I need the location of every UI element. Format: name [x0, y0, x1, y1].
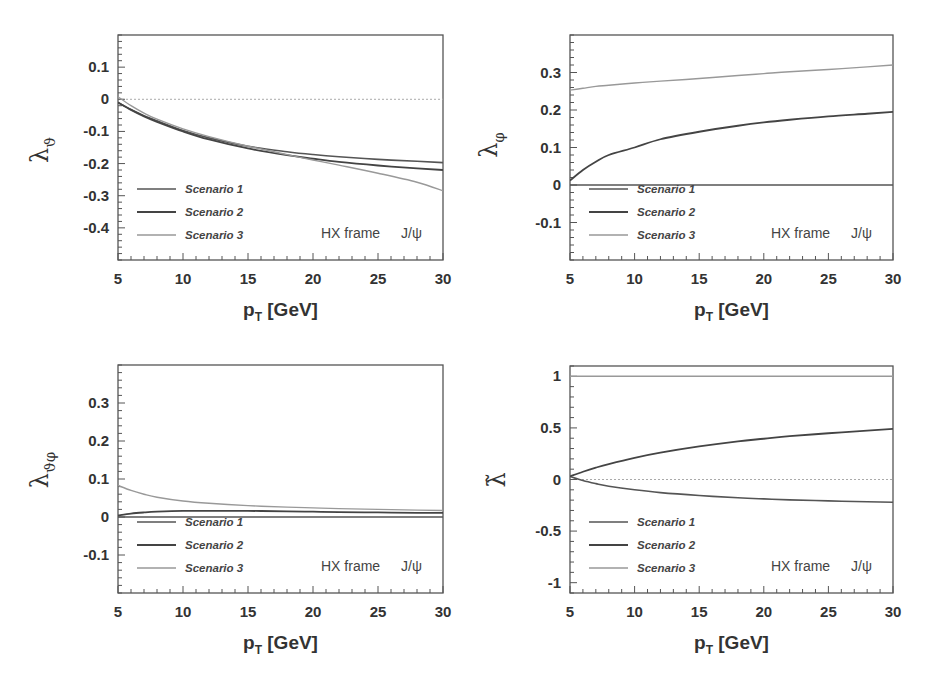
y-tick-label: 0.1	[88, 58, 109, 75]
y-axis-label: λ̃	[483, 472, 511, 487]
panel-lambda-tilde: 51015202530pT [GeV]-1-0.500.51λ̃Scenario…	[483, 366, 901, 657]
x-tick-label: 10	[626, 270, 643, 287]
plot-frame	[118, 35, 443, 260]
y-tick-label: 0	[101, 508, 109, 525]
legend-label: Scenario 3	[637, 562, 696, 574]
legend-label: Scenario 1	[185, 183, 243, 195]
y-tick-label: 0	[101, 90, 109, 107]
x-tick-label: 15	[240, 270, 257, 287]
x-tick-label: 20	[755, 270, 772, 287]
legend-label: Scenario 1	[637, 516, 695, 528]
x-tick-label: 30	[885, 603, 902, 620]
y-axis-label: λφ	[475, 132, 508, 158]
particle-annotation: J/ψ	[401, 558, 422, 574]
x-tick-label: 25	[370, 603, 387, 620]
x-axis-label: pT [GeV]	[694, 299, 769, 324]
x-tick-label: 20	[305, 270, 322, 287]
x-tick-label: 25	[820, 603, 837, 620]
y-tick-label: -0.4	[83, 219, 110, 236]
y-tick-label: 1	[553, 367, 561, 384]
legend-label: Scenario 3	[185, 229, 244, 241]
x-tick-label: 5	[566, 603, 574, 620]
plot-frame	[118, 365, 443, 593]
panel-lambda-phi: 51015202530pT [GeV]-0.100.10.20.3λφScena…	[475, 35, 901, 324]
frame-annotation: HX frame	[771, 558, 830, 574]
y-tick-label: -0.1	[83, 122, 109, 139]
x-axis-label: pT [GeV]	[243, 632, 318, 657]
frame-annotation: HX frame	[321, 225, 380, 241]
x-tick-label: 20	[305, 603, 322, 620]
x-tick-label: 30	[885, 270, 902, 287]
figure-canvas: 51015202530pT [GeV]-0.4-0.3-0.2-0.100.1λ…	[0, 0, 930, 689]
frame-annotation: HX frame	[321, 558, 380, 574]
legend-label: Scenario 1	[637, 183, 695, 195]
y-tick-label: 0.1	[540, 139, 561, 156]
y-tick-label: 0	[553, 176, 561, 193]
x-tick-label: 5	[114, 270, 122, 287]
y-tick-label: -0.1	[535, 214, 561, 231]
legend-label: Scenario 1	[185, 516, 243, 528]
y-tick-label: -0.5	[535, 522, 561, 539]
y-tick-label: -0.3	[83, 187, 109, 204]
x-tick-label: 15	[691, 603, 708, 620]
y-axis-label: λϑφ	[26, 452, 59, 488]
legend-label: Scenario 2	[185, 206, 244, 218]
legend-label: Scenario 2	[637, 539, 696, 551]
x-tick-label: 15	[240, 603, 257, 620]
y-axis-label: λϑ	[26, 137, 59, 163]
panel-lambda-theta-phi: 51015202530pT [GeV]-0.100.10.20.3λϑφScen…	[26, 365, 451, 657]
y-tick-label: -0.1	[83, 546, 109, 563]
x-tick-label: 30	[435, 270, 452, 287]
x-tick-label: 25	[820, 270, 837, 287]
particle-annotation: J/ψ	[851, 558, 872, 574]
y-tick-label: 0.2	[88, 432, 109, 449]
legend-label: Scenario 2	[185, 539, 244, 551]
x-axis-label: pT [GeV]	[243, 299, 318, 324]
legend-label: Scenario 3	[637, 229, 696, 241]
frame-annotation: HX frame	[771, 225, 830, 241]
panel-lambda-theta: 51015202530pT [GeV]-0.4-0.3-0.2-0.100.1λ…	[26, 35, 451, 324]
y-tick-label: 0.5	[540, 419, 561, 436]
particle-annotation: J/ψ	[401, 225, 422, 241]
x-axis-label: pT [GeV]	[694, 632, 769, 657]
x-tick-label: 20	[755, 603, 772, 620]
x-tick-label: 25	[370, 270, 387, 287]
x-tick-label: 10	[175, 270, 192, 287]
legend-label: Scenario 3	[185, 562, 244, 574]
legend-label: Scenario 2	[637, 206, 696, 218]
y-tick-label: -0.2	[83, 155, 109, 172]
y-tick-label: -1	[548, 574, 561, 591]
x-tick-label: 30	[435, 603, 452, 620]
x-tick-label: 10	[175, 603, 192, 620]
y-tick-label: 0.3	[540, 64, 561, 81]
x-tick-label: 5	[566, 270, 574, 287]
y-tick-label: 0	[553, 471, 561, 488]
x-tick-label: 5	[114, 603, 122, 620]
x-tick-label: 10	[626, 603, 643, 620]
y-tick-label: 0.1	[88, 470, 109, 487]
y-tick-label: 0.2	[540, 101, 561, 118]
x-tick-label: 15	[691, 270, 708, 287]
particle-annotation: J/ψ	[851, 225, 872, 241]
y-tick-label: 0.3	[88, 394, 109, 411]
